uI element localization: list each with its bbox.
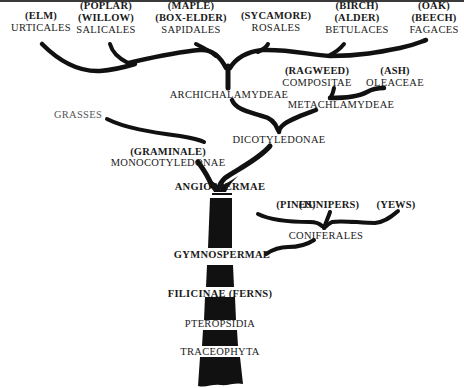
trunk-label-gymnospermae: GYMNOSPERMAE	[174, 249, 270, 261]
order-name: FAGACES	[409, 24, 458, 36]
leaf-urticales: (ELM) URTICALES	[11, 10, 71, 34]
common-name: (MAPLE)	[155, 0, 227, 12]
node-archichalamydeae: ARCHICHALAMYDEAE	[170, 89, 289, 101]
common-name: (OAK)	[409, 0, 458, 12]
trunk-label-traceophyta: TRACEOPHYTA	[180, 346, 259, 358]
trunk-top-band	[212, 193, 232, 195]
node-monocotyledonae: MONOCOTYLEDONAE	[111, 157, 226, 169]
trunk-label-filicinae: FILICINAE (FERNS)	[168, 288, 273, 300]
branch-coniferales-to-gymno	[266, 240, 314, 254]
order-name: SALICALES	[76, 24, 135, 36]
leaf-betulaces: (BIRCH) (ALDER) BETULACES	[325, 0, 388, 36]
order-name: URTICALES	[11, 22, 71, 34]
branch-betulaces	[330, 44, 344, 55]
order-name: COMPOSITAE	[282, 77, 351, 89]
trunk-segment-3	[204, 297, 236, 320]
order-name: SAPIDALES	[155, 24, 227, 36]
branch-archi-to-dicot	[232, 100, 278, 130]
leaf-compositae: (RAGWEED) COMPOSITAE	[282, 65, 351, 89]
leaf-rosales: (SYCAMORE) ROSALES	[241, 10, 311, 34]
common-name: (BOX-ELDER)	[155, 12, 227, 24]
branch-pines	[258, 214, 322, 226]
common-name: (RAGWEED)	[282, 65, 351, 77]
leaf-fagaces: (OAK) (BEECH) FAGACES	[409, 0, 458, 36]
trunk-segment-5	[198, 357, 243, 387]
branch-oleaceae	[330, 88, 384, 98]
common-name: (SYCAMORE)	[241, 10, 311, 22]
trunk-segment-1	[208, 198, 232, 248]
tree-of-life-diagram: (ELM) URTICALES (POPLAR) (WILLOW) SALICA…	[0, 0, 464, 388]
order-name: OLEACEAE	[366, 77, 424, 89]
node-dicotyledonae: DICOTYLEDONAE	[232, 134, 325, 146]
order-name: BETULACES	[325, 24, 388, 36]
branch-right-arm	[230, 40, 426, 68]
node-grasses: GRASSES	[54, 109, 102, 121]
branch-dicot-to-angio	[220, 146, 270, 186]
node-junipers: (JUNIPERS)	[299, 199, 359, 211]
trunk-label-pteropsidia: PTEROPSIDIA	[185, 318, 255, 330]
common-name: (WILLOW)	[76, 12, 135, 24]
leaf-sapidales: (MAPLE) (BOX-ELDER) SAPIDALES	[155, 0, 227, 36]
branch-grasses	[107, 119, 204, 142]
common-name: (POPLAR)	[76, 0, 135, 12]
leaf-oleaceae: (ASH) OLEACEAE	[366, 65, 424, 89]
branch-salicales	[110, 44, 128, 63]
order-name: ROSALES	[241, 22, 311, 34]
trunk-segment-2	[206, 265, 234, 287]
node-yews: (YEWS)	[376, 199, 415, 211]
common-name: (BEECH)	[409, 12, 458, 24]
trunk-segment-4	[202, 330, 238, 346]
common-name: (ALDER)	[325, 12, 388, 24]
trunk-label-angiospermae: ANGIOSPERMAE	[175, 181, 266, 193]
node-coniferales: CONIFERALES	[289, 230, 363, 242]
node-metachlamydeae: METACHLAMYDEAE	[288, 99, 395, 111]
common-name: (ASH)	[366, 65, 424, 77]
branch-meta-to-dicot	[279, 110, 316, 132]
common-name: (ELM)	[11, 10, 71, 22]
branch-yews	[324, 211, 398, 228]
common-name: (BIRCH)	[325, 0, 388, 12]
leaf-salicales: (POPLAR) (WILLOW) SALICALES	[76, 0, 135, 36]
